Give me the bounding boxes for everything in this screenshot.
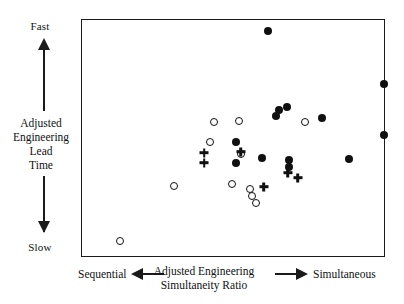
arrow-left-icon [131, 268, 143, 280]
data-point-filled-circle [345, 155, 353, 163]
arrow-down-icon [38, 221, 50, 233]
data-point-filled-circle [283, 103, 291, 111]
data-point-filled-circle [232, 159, 240, 167]
y-axis-low-label: Slow [0, 241, 80, 253]
data-point-plus [200, 158, 209, 167]
data-points-layer [82, 20, 384, 256]
data-point-filled-circle [258, 154, 266, 162]
data-point-plus [259, 182, 268, 191]
y-axis-title: Adjusted Engineering Lead Time [0, 116, 82, 172]
data-point-open-circle [170, 182, 178, 190]
data-point-filled-circle [380, 80, 388, 88]
x-axis-high-label: Simultaneous [313, 268, 376, 280]
x-axis-title-line-1: Adjusted Engineering [144, 265, 264, 279]
plot-area [81, 19, 385, 257]
y-axis-title-line-2: Engineering [0, 130, 82, 144]
data-point-open-circle [235, 117, 243, 125]
arrow-up-icon [38, 38, 50, 50]
data-point-filled-circle [318, 114, 326, 122]
data-point-filled-circle [264, 27, 272, 35]
data-point-open-circle [206, 138, 214, 146]
arrow-right-stem [275, 273, 297, 275]
arrow-right-icon [296, 268, 308, 280]
data-point-filled-circle [232, 138, 240, 146]
data-point-plus [200, 148, 209, 157]
x-axis-title-line-2: Simultaneity Ratio [144, 279, 264, 293]
x-axis-low-label: Sequential [78, 268, 127, 280]
y-axis-annotation: Fast Adjusted Engineering Lead Time Slow [0, 16, 80, 256]
data-point-open-circle [228, 180, 236, 188]
data-point-filled-circle [380, 131, 388, 139]
data-point-open-circle [210, 118, 218, 126]
data-point-open-circle [252, 199, 260, 207]
data-point-plus [283, 168, 292, 177]
data-point-filled-circle [272, 112, 280, 120]
x-axis-annotation: Sequential Adjusted Engineering Simultan… [0, 264, 404, 302]
y-axis-title-line-4: Time [0, 158, 82, 172]
data-point-open-circle [116, 237, 124, 245]
arrow-up-stem [43, 49, 45, 111]
y-axis-title-line-1: Adjusted [0, 116, 82, 130]
y-axis-high-label: Fast [0, 20, 80, 32]
data-point-plus [236, 147, 245, 156]
y-axis-title-line-3: Lead [0, 144, 82, 158]
data-point-plus [293, 173, 302, 182]
data-point-open-circle [301, 118, 309, 126]
scatter-plot-figure: Fast Adjusted Engineering Lead Time Slow… [0, 0, 404, 304]
x-axis-title: Adjusted Engineering Simultaneity Ratio [144, 265, 264, 292]
